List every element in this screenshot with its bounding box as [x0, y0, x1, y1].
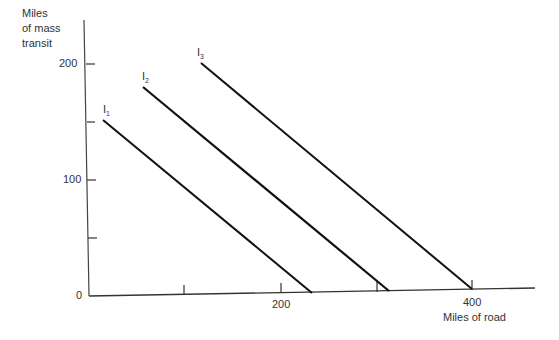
curve-label-i2: I2 [142, 70, 149, 84]
y-axis [84, 20, 89, 296]
chart-canvas [0, 0, 559, 340]
y-label-line-1: Miles [22, 6, 82, 21]
y-label-line-3: transit [22, 36, 82, 51]
y-tick-label-0: 0 [76, 289, 82, 301]
y-tick-label-200: 200 [59, 57, 77, 69]
x-tick-label-200: 200 [272, 298, 290, 310]
curve-label-sub: 3 [200, 53, 204, 60]
curve-label-i1: I1 [103, 103, 110, 117]
curve-label-i3: I3 [197, 46, 204, 60]
y-axis-label: Miles of mass transit [22, 6, 82, 51]
y-label-line-2: of mass [22, 21, 82, 36]
y-tick-label-100: 100 [63, 173, 81, 185]
curve-i1 [103, 120, 312, 293]
x-axis-label: Miles of road [443, 310, 506, 325]
x-tick-label-400: 400 [463, 296, 481, 308]
curve-label-sub: 2 [145, 77, 149, 84]
curve-label-sub: 1 [106, 110, 110, 117]
curve-i3 [201, 63, 472, 289]
